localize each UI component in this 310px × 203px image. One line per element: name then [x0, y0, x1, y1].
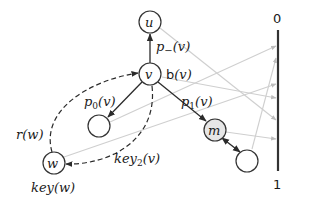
label-key-w: key(w)	[31, 180, 75, 195]
axis-bottom-label: 1	[273, 177, 281, 192]
node-w-label: w	[47, 156, 58, 171]
node-m-label: m	[208, 123, 220, 138]
node-m: m	[204, 119, 226, 141]
label-p1: p1(v)	[181, 94, 213, 111]
label-b-v: b(v)	[166, 67, 192, 82]
tree-diagram: 0 1 u v m w p−(v) b(v) p0(v) p1(v) r(w)	[0, 0, 310, 203]
node-w: w	[43, 152, 65, 174]
node-v: v	[139, 63, 161, 85]
node-v-label: v	[145, 67, 153, 82]
axis-top-label: 0	[273, 11, 281, 26]
label-p0: p0(v)	[84, 94, 116, 111]
mapping-line-m	[226, 132, 276, 139]
node-left-empty	[88, 115, 110, 137]
node-u: u	[139, 11, 161, 33]
label-key2-v: key2(v)	[114, 151, 160, 168]
node-u-label: u	[145, 15, 153, 30]
dashed-edge-w-to-v	[50, 73, 138, 152]
edge-m-bottom-right	[222, 138, 240, 152]
label-r-w: r(w)	[16, 127, 44, 142]
node-bottom-right-empty	[236, 150, 258, 172]
label-p-minus: p−(v)	[156, 39, 190, 56]
